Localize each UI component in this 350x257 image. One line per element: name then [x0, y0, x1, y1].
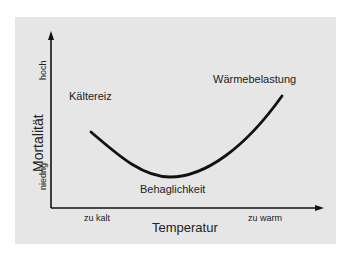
x-axis	[51, 205, 324, 211]
x-axis-label: Temperatur	[152, 220, 218, 235]
mortality-curve	[91, 96, 282, 177]
x-axis-arrow-icon	[315, 205, 324, 211]
y-axis-arrow-icon	[48, 31, 54, 40]
x-tick-cold: zu kalt	[84, 213, 110, 223]
annotation-comfort: Behaglichkeit	[140, 183, 205, 195]
y-tick-low: niedrig	[38, 163, 48, 190]
y-axis	[48, 31, 54, 208]
x-tick-warm: zu warm	[248, 213, 282, 223]
y-tick-high: hoch	[38, 60, 48, 80]
diagram-graphics	[0, 0, 350, 257]
annotation-cold: Kältereiz	[69, 90, 112, 102]
annotation-heat: Wärmebelastung	[213, 73, 296, 85]
